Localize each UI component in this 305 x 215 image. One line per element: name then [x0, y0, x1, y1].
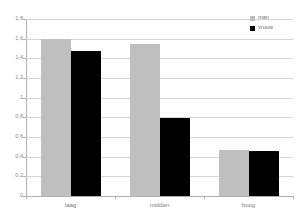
- y-axis-tick-labels: 00,20,40,60,811,21,41,61,8: [0, 19, 23, 196]
- legend-swatch-icon: [250, 16, 255, 21]
- x-tick-label-hoog: hoog: [242, 202, 255, 208]
- bar-laag-man[interactable]: [41, 39, 71, 196]
- x-axis-line: [26, 196, 293, 197]
- y-tick-label: 1,4: [15, 56, 23, 62]
- y-tick-label: 1,6: [15, 36, 23, 42]
- plot-area: [26, 19, 293, 196]
- bar-group-midden: [130, 19, 190, 196]
- bar-hoog-vrouw[interactable]: [249, 151, 279, 196]
- legend-label: man: [258, 15, 269, 21]
- bar-midden-vrouw[interactable]: [160, 118, 190, 196]
- legend-label: vrouw: [258, 25, 273, 31]
- y-tick-label: 1,8: [15, 16, 23, 22]
- x-tick-mark: [293, 196, 294, 199]
- bar-group-hoog: [219, 19, 279, 196]
- y-tick-label: 0,8: [15, 115, 23, 121]
- x-tick-mark: [204, 196, 205, 199]
- legend-swatch-icon: [250, 26, 255, 31]
- x-tick-label-midden: midden: [150, 202, 170, 208]
- bar-chart: 00,20,40,60,811,21,41,61,8 manvrouw laag…: [0, 0, 305, 215]
- legend-entry-vrouw[interactable]: vrouw: [250, 24, 296, 32]
- y-tick-label: 1,2: [15, 75, 23, 81]
- y-tick-label: 0,2: [15, 174, 23, 180]
- x-tick-mark: [26, 196, 27, 199]
- chart-legend: manvrouw: [250, 14, 296, 34]
- bar-hoog-man[interactable]: [219, 150, 249, 196]
- legend-entry-man[interactable]: man: [250, 14, 296, 22]
- y-tick-label: 0,4: [15, 154, 23, 160]
- bar-group-laag: [41, 19, 101, 196]
- bar-midden-man[interactable]: [130, 44, 160, 196]
- x-tick-mark: [115, 196, 116, 199]
- y-tick-label: 0,6: [15, 134, 23, 140]
- bar-laag-vrouw[interactable]: [71, 51, 101, 196]
- x-tick-label-laag: laag: [65, 202, 76, 208]
